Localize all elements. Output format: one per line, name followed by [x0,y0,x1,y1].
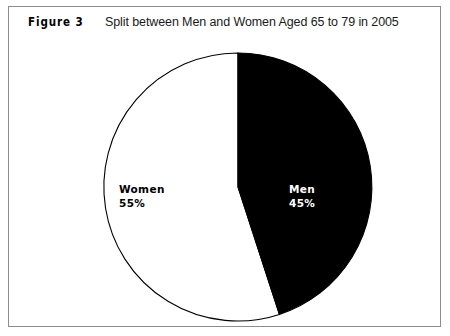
pie-label-men: Men 45% [289,182,315,210]
pie-label-women: Women 55% [119,182,165,210]
pie-label-men-percent: 45% [289,196,315,210]
pie-label-men-name: Men [289,183,315,195]
pie-chart: Women 55% Men 45% [9,7,442,328]
pie-label-women-name: Women [119,183,165,195]
pie-label-women-percent: 55% [119,196,165,210]
figure-frame: Figure 3 Split between Men and Women Age… [8,6,441,327]
